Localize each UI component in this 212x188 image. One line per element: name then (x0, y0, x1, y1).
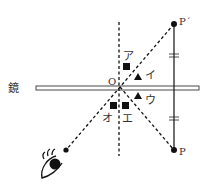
label-a: ア (123, 50, 134, 63)
label-u: ウ (145, 94, 156, 107)
triangle-u (134, 92, 142, 99)
mirror-reflection-diagram: 鏡 P´ P O ア イ ウ エ オ (0, 0, 212, 188)
point-p-label: P (179, 146, 186, 157)
mirror-label: 鏡 (8, 81, 19, 95)
point-p-prime-label: P´ (179, 16, 191, 27)
label-o: オ (102, 112, 113, 125)
label-e: エ (122, 112, 133, 125)
eye-icon (42, 149, 62, 178)
origin-label: O (108, 76, 116, 87)
square-e (122, 102, 129, 109)
square-a (123, 63, 130, 70)
point-p-prime (171, 21, 177, 27)
point-p (171, 147, 177, 153)
eye-point (63, 147, 68, 152)
triangle-i (134, 73, 142, 80)
square-o (110, 102, 117, 109)
label-i: イ (145, 69, 156, 82)
